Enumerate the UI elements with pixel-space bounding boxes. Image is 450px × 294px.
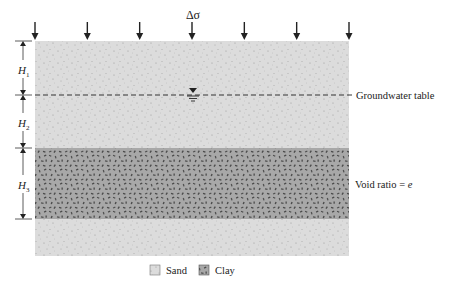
dimension-h3: H3 bbox=[17, 179, 30, 194]
load-arrow-icon bbox=[136, 22, 143, 40]
dimension-h2: H2 bbox=[17, 117, 30, 132]
groundwater-table-label: Groundwater table bbox=[356, 90, 435, 101]
load-arrow-icon bbox=[293, 22, 300, 40]
dimension-h1: H1 bbox=[17, 64, 30, 79]
legend-clay-swatch bbox=[199, 265, 209, 275]
legend-sand-label: Sand bbox=[166, 265, 188, 276]
load-label: Δσ bbox=[186, 8, 201, 22]
soil-profile-diagram: Δσ Groundwater table Void ratio = e bbox=[0, 0, 450, 294]
load-arrow-icon bbox=[241, 22, 248, 40]
void-ratio-symbol: e bbox=[408, 179, 413, 190]
clay-layer bbox=[35, 148, 349, 219]
legend-clay-label: Clay bbox=[215, 265, 236, 276]
legend-sand-swatch bbox=[150, 265, 160, 275]
load-arrow-icon bbox=[84, 22, 91, 40]
void-ratio-label: Void ratio = e bbox=[355, 179, 413, 190]
load-arrows bbox=[32, 22, 353, 40]
load-arrow-icon bbox=[32, 22, 39, 40]
load-arrow-icon bbox=[189, 22, 196, 40]
sand-layer-lower bbox=[35, 219, 349, 256]
legend: Sand Clay bbox=[150, 265, 236, 276]
load-arrow-icon bbox=[346, 22, 353, 40]
void-ratio-text: Void ratio = bbox=[355, 179, 408, 190]
